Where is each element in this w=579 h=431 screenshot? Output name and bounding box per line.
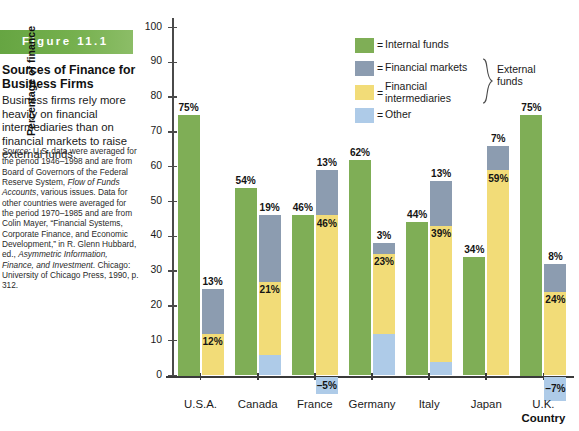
bar-internal-funds[interactable] [520,115,542,376]
y-axis-title: Percentage of finance [25,21,37,141]
x-tick-mark [314,373,316,380]
y-tick-mark [168,340,177,342]
bar-financial-intermediaries[interactable] [487,170,509,375]
y-tick-mark [168,96,177,98]
y-tick-mark [168,27,177,29]
y-tick-label: 100 [136,21,162,32]
bar-label-financial-markets: 3% [356,230,412,241]
y-tick-mark [168,305,177,307]
x-tick-mark [257,373,259,380]
bar-label-internal-funds: 75% [161,102,217,113]
x-axis-line [166,376,574,378]
bar-financial-markets[interactable] [544,264,566,292]
legend-label: Financial intermediaries [385,81,451,104]
y-tick-label: 70 [136,125,162,136]
bar-financial-markets[interactable] [202,289,224,334]
bar-label-internal-funds: 62% [332,147,388,158]
y-tick-label: 10 [136,334,162,345]
y-tick-label: 30 [136,264,162,275]
y-tick-mark [168,236,177,238]
legend-swatch [355,61,374,76]
legend-swatch [355,85,374,100]
bar-other[interactable] [373,334,395,376]
y-tick-label: 20 [136,299,162,310]
bar-label-other: –5% [299,380,355,391]
legend-label: Other [385,109,411,121]
bar-label-financial-markets: 13% [413,168,469,179]
bar-label-financial-markets: 8% [527,251,579,262]
external-funds-brace [482,58,494,104]
x-tick-mark [543,373,545,380]
legend-label: Financial markets [385,62,467,74]
chart-legend: =Internal funds=Financial markets=Financ… [355,38,565,128]
y-tick-label: 90 [136,55,162,66]
bar-label-financial-intermediaries: 21% [242,284,298,295]
legend-swatch [355,108,374,123]
legend-equals-sign: = [377,39,383,51]
bar-label-other: –7% [527,383,579,394]
bar-financial-markets[interactable] [316,170,338,215]
x-tick-mark [428,373,430,380]
bar-financial-intermediaries[interactable] [316,215,338,375]
y-tick-mark [168,166,177,168]
bar-internal-funds[interactable] [349,160,371,376]
x-tick-mark [371,373,373,380]
bar-label-financial-intermediaries: 12% [185,336,241,347]
bar-label-internal-funds: 54% [218,175,274,186]
bar-label-financial-intermediaries: 59% [470,173,526,184]
bar-financial-markets[interactable] [373,243,395,253]
legend-equals-sign: = [377,62,383,74]
legend-label: Internal funds [385,39,449,51]
bar-financial-markets[interactable] [259,215,281,281]
bar-label-financial-intermediaries: 23% [356,256,412,267]
y-tick-label: 60 [136,160,162,171]
bar-financial-markets[interactable] [487,146,509,170]
y-axis-line [172,18,174,376]
bar-internal-funds[interactable] [463,257,485,375]
y-tick-mark [168,131,177,133]
y-tick-label: 50 [136,195,162,206]
legend-group-label: External funds [497,64,536,87]
legend-equals-sign: = [377,87,383,99]
x-category-label-uk: U.K. [503,398,579,410]
y-tick-mark [168,270,177,272]
bar-label-financial-markets: 13% [185,276,241,287]
x-axis-title: Country [503,412,579,424]
y-tick-mark [168,375,177,377]
y-tick-label: 0 [136,369,162,380]
bar-internal-funds[interactable] [292,215,314,375]
y-tick-label: 40 [136,229,162,240]
bar-financial-markets[interactable] [430,181,452,226]
bar-label-financial-intermediaries: 39% [413,228,469,239]
y-tick-mark [168,201,177,203]
x-tick-mark [485,373,487,380]
bar-label-financial-markets: 7% [470,133,526,144]
x-tick-mark [200,373,202,380]
bar-other[interactable] [430,362,452,376]
bar-label-financial-intermediaries: 24% [527,294,579,305]
legend-equals-sign: = [377,109,383,121]
bar-other[interactable] [259,355,281,376]
legend-swatch [355,38,374,53]
bar-label-financial-markets: 13% [299,157,355,168]
bar-label-financial-intermediaries: 46% [299,218,355,229]
y-tick-label: 80 [136,90,162,101]
y-tick-mark [168,62,177,64]
